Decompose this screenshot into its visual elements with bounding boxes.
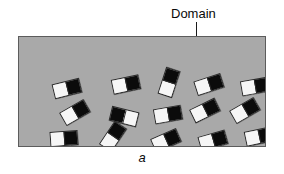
domain-particle — [52, 78, 83, 99]
domain-particle — [99, 121, 127, 147]
domain-particle — [158, 67, 181, 98]
domain-particle — [197, 129, 228, 147]
domain-particle — [150, 128, 182, 147]
domain-particle — [153, 105, 183, 125]
domain-particle — [229, 97, 261, 124]
domain-particle — [193, 73, 224, 96]
domain-particle — [189, 98, 221, 124]
domain-particle — [59, 99, 91, 126]
domain-particle — [240, 77, 266, 97]
domain-half-dark — [253, 78, 266, 93]
domain-particle — [111, 74, 142, 94]
microstructure-figure: Domain a — [0, 0, 284, 174]
domain-half-dark — [211, 131, 228, 147]
domain-half-dark — [166, 106, 182, 121]
figure-caption: a — [0, 150, 284, 165]
domain-half-dark — [63, 131, 77, 145]
domain-particle — [50, 130, 79, 147]
domain-annotation-label: Domain — [171, 6, 216, 21]
domain-half-dark — [257, 127, 266, 143]
domain-half-dark — [207, 74, 224, 91]
domain-half-light — [122, 110, 138, 126]
domain-half-light — [51, 132, 64, 146]
domain-half-dark — [65, 79, 81, 95]
domain-half-dark — [124, 75, 140, 91]
specimen-box — [18, 36, 266, 147]
domain-particle — [244, 126, 266, 146]
